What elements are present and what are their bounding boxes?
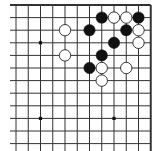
white-stone[interactable] <box>108 12 119 23</box>
black-stone[interactable] <box>108 37 119 48</box>
black-stone[interactable] <box>121 25 132 36</box>
white-stone[interactable] <box>121 62 132 73</box>
white-stone[interactable] <box>96 75 107 86</box>
black-stone[interactable] <box>133 12 144 23</box>
white-stone[interactable] <box>59 25 70 36</box>
white-stone[interactable] <box>133 37 144 48</box>
white-stone[interactable] <box>121 12 132 23</box>
go-board[interactable] <box>0 0 158 151</box>
white-stone[interactable] <box>96 62 107 73</box>
white-stone[interactable] <box>133 25 144 36</box>
black-stone[interactable] <box>96 12 107 23</box>
star-point <box>112 117 115 120</box>
star-point <box>39 117 42 120</box>
white-stone[interactable] <box>59 50 70 61</box>
black-stone[interactable] <box>84 25 95 36</box>
black-stone[interactable] <box>96 50 107 61</box>
black-stone[interactable] <box>84 62 95 73</box>
star-point <box>39 41 42 44</box>
